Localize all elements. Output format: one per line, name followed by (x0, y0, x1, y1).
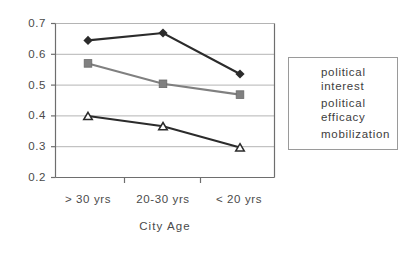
y-tick-label: 0.7 (12, 17, 46, 29)
square-marker (159, 80, 167, 88)
y-tick-label: 0.6 (12, 48, 46, 60)
square-marker (236, 91, 244, 99)
plot-area-background (56, 24, 275, 178)
y-tick-label: 0.3 (12, 140, 46, 152)
legend-item-mobilization: mobilization (294, 128, 398, 143)
y-tick-label: 0.4 (12, 109, 46, 121)
legend-item-label: political efficacy (321, 97, 366, 124)
legend-item-political-efficacy: political efficacy (294, 97, 398, 124)
x-axis-title: City Age (105, 220, 225, 232)
x-tick-label: 20-30 yrs (125, 193, 201, 205)
square-marker-icon (294, 98, 321, 112)
chart-legend: political interest political efficacy mo… (288, 57, 398, 150)
square-marker (84, 60, 92, 68)
y-axis-ticks (51, 24, 56, 178)
line-chart: 0.7 0.6 0.5 0.4 0.3 0.2 > 30 yrs 20-30 y… (0, 0, 414, 253)
legend-item-political-interest: political interest (294, 66, 398, 93)
y-tick-label: 0.5 (12, 79, 46, 91)
y-tick-label: 0.2 (12, 171, 46, 183)
triangle-marker-icon (294, 129, 321, 143)
legend-item-label: political interest (321, 66, 366, 93)
x-axis-ticks (125, 178, 201, 184)
diamond-marker-icon (294, 67, 321, 81)
x-tick-label: < 20 yrs (201, 193, 277, 205)
x-tick-label: > 30 yrs (50, 193, 126, 205)
legend-item-label: mobilization (321, 128, 390, 142)
